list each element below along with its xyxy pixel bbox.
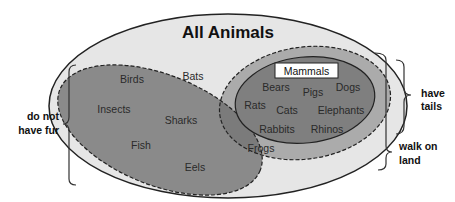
label-bats: Bats [182,70,203,82]
have-tails-label-line2: tails [421,100,442,112]
label-rabbits: Rabbits [259,123,295,135]
walk-on-land-label-line1: walk on [398,140,438,152]
mammals-label: Mammals [284,65,330,77]
label-elephants: Elephants [318,104,365,116]
label-sharks: Sharks [165,114,198,126]
label-frogs: Frogs [248,142,275,154]
label-rhinos: Rhinos [311,123,344,135]
have-tails-label-line1: have [421,87,445,99]
label-rats: Rats [244,99,266,111]
walk-on-land-label-line2: land [399,154,421,166]
label-insects: Insects [97,103,130,115]
diagram-title: All Animals [182,23,274,42]
label-fish: Fish [131,139,151,151]
venn-diagram: Mammals All Animals Bats Birds Insects S… [0,0,455,202]
no-fur-label-line2: have fur [18,124,59,136]
label-eels: Eels [185,161,205,173]
label-cats: Cats [276,104,298,116]
label-birds: Birds [120,73,144,85]
label-pigs: Pigs [303,86,323,98]
label-bears: Bears [262,81,289,93]
no-fur-label-line1: do not [27,110,60,122]
label-dogs: Dogs [336,81,361,93]
